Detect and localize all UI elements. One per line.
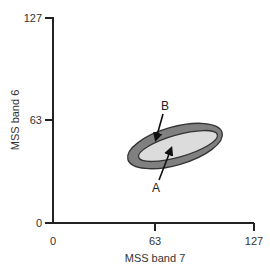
x-tick-label-127: 127 <box>245 235 263 247</box>
scatter-diagram: 127 63 0 0 63 127 MSS band 7 MSS band 6 … <box>0 0 270 270</box>
y-tick-label-127: 127 <box>24 12 42 24</box>
x-tick-label-0: 0 <box>50 235 56 247</box>
label-b: B <box>161 99 169 113</box>
y-tick-label-63: 63 <box>30 114 42 126</box>
y-tick-label-0: 0 <box>36 217 42 229</box>
label-a: A <box>152 181 160 195</box>
x-tick-label-63: 63 <box>149 235 161 247</box>
x-axis-label: MSS band 7 <box>125 252 186 264</box>
y-axis-label: MSS band 6 <box>9 90 21 151</box>
